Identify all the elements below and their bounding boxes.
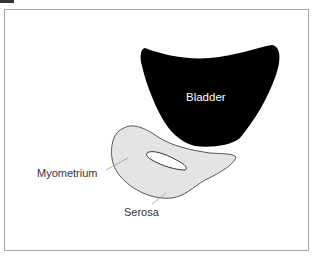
serosa-label: Serosa [124, 206, 159, 218]
myometrium-label: Myometrium [37, 167, 98, 179]
anatomy-diagram [0, 0, 321, 263]
bladder-label: Bladder [186, 91, 226, 103]
